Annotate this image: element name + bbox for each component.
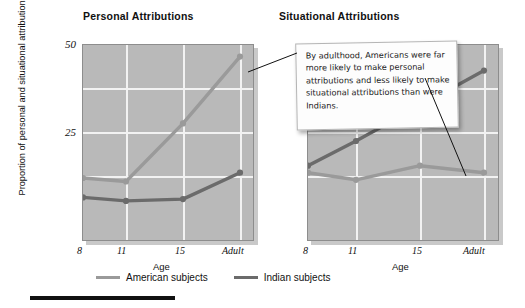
- callout-note-text: By adulthood, Americans were far more li…: [306, 48, 453, 111]
- legend-item-indian: Indian subjects: [234, 272, 331, 283]
- plot-area-personal-attributions: [82, 44, 254, 241]
- chart-legend: American subjects Indian subjects: [96, 272, 330, 283]
- chart-title-situational: Situational Attributions: [279, 10, 400, 22]
- footer-rule: [30, 296, 175, 300]
- legend-item-american: American subjects: [96, 272, 208, 283]
- xtick-left-adult: Adult: [222, 245, 244, 256]
- xtick-right-11: 11: [348, 245, 357, 256]
- legend-swatch-american: [96, 276, 120, 280]
- xtick-right-adult: Adult: [463, 245, 485, 256]
- yaxis-label: Proportion of personal and situational a…: [17, 26, 28, 196]
- xaxis-label-right: Age: [392, 261, 409, 272]
- chart-title-personal: Personal Attributions: [83, 10, 194, 22]
- xtick-left-8: 8: [77, 245, 82, 256]
- xtick-right-8: 8: [303, 245, 308, 256]
- callout-note: By adulthood, Americans were far more li…: [295, 40, 459, 130]
- xtick-left-11: 11: [117, 245, 126, 256]
- legend-label-american: American subjects: [126, 272, 208, 283]
- ytick-label-25: 25: [46, 126, 76, 138]
- ytick-label-50: 50: [46, 38, 76, 50]
- xtick-right-15: 15: [412, 245, 422, 256]
- legend-label-indian: Indian subjects: [264, 272, 331, 283]
- xtick-left-15: 15: [175, 245, 185, 256]
- series-lines-left: [83, 45, 254, 241]
- xaxis-label-left: Age: [153, 261, 170, 272]
- legend-swatch-indian: [234, 276, 258, 280]
